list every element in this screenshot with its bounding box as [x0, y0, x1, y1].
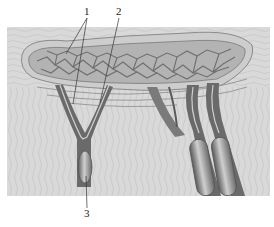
- label-2: 2: [116, 6, 122, 17]
- anatomical-illustration: [7, 27, 270, 196]
- illustration-frame: [7, 27, 270, 196]
- bulb-structure: [78, 151, 92, 183]
- label-1: 1: [84, 6, 90, 17]
- label-3: 3: [84, 208, 90, 219]
